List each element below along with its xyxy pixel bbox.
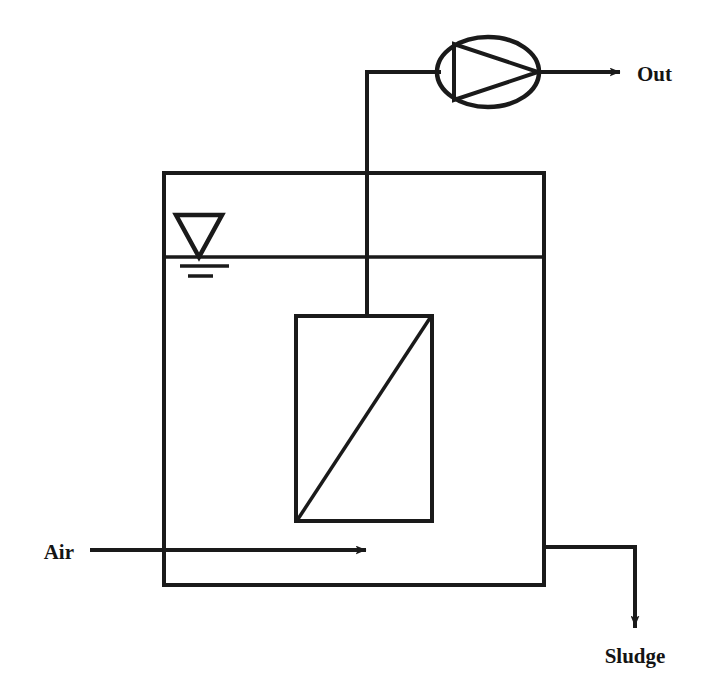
reactor-tank-outline xyxy=(164,173,544,585)
pump-impeller-triangle-icon xyxy=(454,44,538,100)
membrane-module xyxy=(296,316,432,521)
diagram-canvas: Out Air Sludge xyxy=(0,0,704,700)
permeate-riser-pipe xyxy=(367,72,439,316)
process-flow-diagram: Out Air Sludge xyxy=(0,0,704,700)
air-label: Air xyxy=(44,540,74,564)
reactor-tank xyxy=(164,173,544,585)
membrane-module-diagonal xyxy=(298,318,430,519)
out-label: Out xyxy=(637,62,672,86)
sludge-label: Sludge xyxy=(605,644,666,668)
sludge-outlet-pipe xyxy=(544,547,635,626)
water-surface-triangle-icon xyxy=(176,215,222,257)
water-surface-symbol xyxy=(176,215,229,276)
permeate-pump xyxy=(437,37,539,107)
